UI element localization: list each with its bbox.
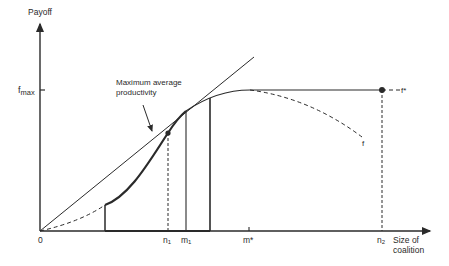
curve-fstar-label: f*	[401, 86, 406, 95]
annotation-line2: productivity	[116, 88, 156, 97]
annotation-arrow	[143, 105, 152, 131]
x-axis-label-line1: Size of	[393, 235, 420, 245]
curve-f-declining	[250, 90, 362, 137]
curve-f-label: f	[362, 139, 365, 148]
tick-mstar: m*	[243, 235, 254, 245]
curve-dashed-initial	[40, 205, 105, 231]
fmax-label: fmax	[18, 85, 35, 97]
curve-upper-section	[186, 90, 250, 111]
origin-label: 0	[38, 235, 43, 245]
n1-point	[165, 130, 170, 135]
x-axis-label-line2: coalition	[393, 245, 424, 255]
coalition-payoff-diagram: Payoff fmax Maximum average productivity…	[0, 0, 449, 266]
tick-m1: m1	[181, 235, 192, 245]
n2-point	[379, 87, 385, 93]
annotation-line1: Maximum average	[116, 78, 182, 87]
tick-n1: n1	[163, 235, 172, 245]
tick-n2: n2	[377, 235, 386, 245]
curve-thick-section	[105, 111, 186, 205]
y-axis-label: Payoff	[28, 7, 53, 17]
